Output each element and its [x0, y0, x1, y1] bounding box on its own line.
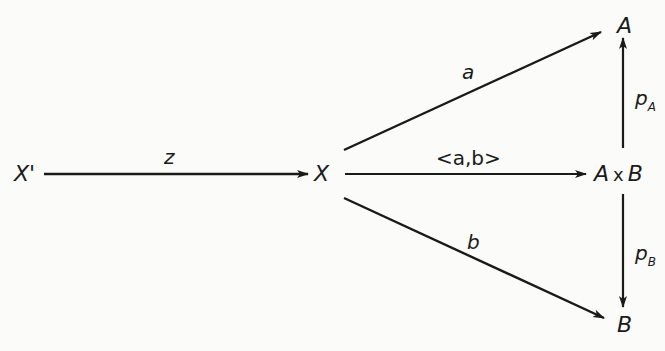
diagram-canvas — [0, 0, 665, 351]
edge-label-z: z — [164, 147, 175, 167]
node-b: B — [617, 314, 632, 336]
node-a-times-b: AxB — [594, 163, 643, 185]
p-a-main: p — [635, 86, 648, 110]
edge-label-p-b: pB — [635, 243, 656, 263]
edge-label-pair: <a,b> — [436, 148, 501, 168]
arrow-a — [344, 32, 601, 150]
p-b-main: p — [635, 241, 648, 265]
times-symbol: x — [613, 164, 624, 185]
edge-label-a: a — [462, 62, 474, 82]
node-x-prime: X' — [14, 163, 35, 185]
arrow-b — [344, 198, 604, 318]
edge-label-p-a: pA — [635, 88, 656, 108]
p-b-subscript: B — [648, 255, 656, 269]
node-a-times-b-left: A — [594, 161, 609, 186]
node-a: A — [617, 15, 632, 37]
edge-label-b: b — [467, 232, 480, 252]
node-x: X — [314, 163, 329, 185]
node-a-times-b-right: B — [628, 161, 643, 186]
p-a-subscript: A — [648, 100, 656, 114]
